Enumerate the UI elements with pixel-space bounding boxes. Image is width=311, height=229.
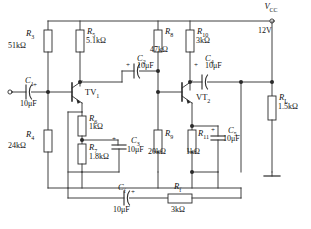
r8-value-label: 47kΩ: [150, 46, 168, 54]
c3-polarity-label: +: [112, 136, 116, 143]
r8-ref-label: R8: [165, 27, 173, 38]
load-tap-node: [270, 80, 274, 84]
r7-value-label: 1.8kΩ: [89, 153, 109, 161]
c5-value-label: 10μF: [223, 135, 240, 143]
rf-value-label: 3kΩ: [171, 206, 185, 214]
tv1-collector-lead: [72, 81, 82, 88]
c4-value-label: 10μF: [205, 62, 222, 70]
c1-value-label: 10μF: [20, 100, 37, 108]
r5-value-label: 5.1kΩ: [86, 37, 106, 45]
rf-ref-label: Rf: [174, 182, 181, 193]
rl-body: [268, 96, 276, 120]
r5-body: [76, 30, 84, 52]
tv1-ref-label: TV1: [85, 88, 99, 99]
vt2-ref-label: VT2: [196, 93, 210, 104]
c4-polarity-label: +: [194, 62, 198, 69]
r10-body: [186, 30, 194, 52]
r11-top-node: [190, 124, 194, 128]
c5-polarity-label: +: [211, 127, 215, 134]
supply-symbol: VCC: [264, 2, 277, 13]
r9-ref-label: R9: [165, 129, 173, 140]
r3-body: [44, 30, 52, 52]
r11-ref-label: R11: [198, 129, 209, 140]
c1-polarity-label: +: [33, 82, 37, 89]
supply-voltage-value: 12V: [258, 27, 272, 35]
r4-ref-label: R4: [26, 130, 34, 141]
c3-value-label: 10μF: [127, 146, 144, 154]
vt2-emitter-lead: [182, 96, 192, 103]
r10-value-label: 3kΩ: [196, 37, 210, 45]
r4-body: [44, 130, 52, 152]
r6-body: [78, 116, 86, 136]
cf-value-label: 10μF: [113, 206, 130, 214]
rl-value-label: 1.5kΩ: [278, 103, 298, 111]
r6-value-label: 1kΩ: [89, 123, 103, 131]
c2-value-label: 10μF: [137, 62, 154, 70]
input-terminal-node: [8, 90, 12, 94]
stage2-bias-node: [156, 69, 160, 73]
rf-body: [168, 194, 192, 203]
r3-ref-label: R3: [26, 29, 34, 40]
tv1-emitter-lead: [72, 96, 82, 103]
cf-ref-label: Cf: [118, 183, 126, 194]
circuit-diagram: VCC 12V R3 51kΩ R5 5.1kΩ R8 47kΩ R10 3kΩ…: [0, 0, 311, 229]
c2-polarity-label: +: [126, 62, 130, 69]
r9-value-label: 20kΩ: [148, 148, 166, 156]
cf-polarity-label: +: [131, 189, 135, 196]
r3-value-label: 51kΩ: [8, 42, 26, 50]
r4-value-label: 24kΩ: [8, 142, 26, 150]
r11-value-label: 1kΩ: [186, 148, 200, 156]
supply-label-group: VCC: [248, 2, 294, 13]
r7-body: [78, 144, 86, 164]
